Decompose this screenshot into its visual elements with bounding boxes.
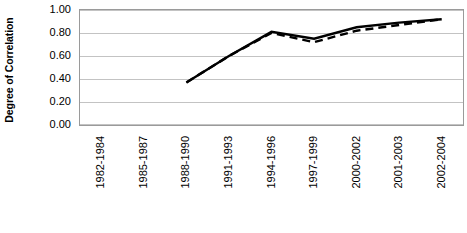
x-axis-tick-label: 2000-2002 <box>348 126 364 226</box>
y-axis-tick-label: 1.00 <box>50 4 71 15</box>
x-axis-tick-label-text: 1994-1996 <box>265 136 277 220</box>
x-axis-tick-label-text: 2000-2002 <box>350 136 362 220</box>
x-axis-tick-label: 1994-1996 <box>263 126 279 226</box>
x-axis-tick-label-text: 1997-1999 <box>307 136 319 220</box>
x-axis-tick-label: 2002-2004 <box>433 126 449 226</box>
x-axis-tick-label-text: 2002-2004 <box>435 136 447 220</box>
series-layer <box>80 10 463 125</box>
x-axis-tick-label-text: 1985-1987 <box>137 136 149 220</box>
series-line-solid-series <box>186 19 441 82</box>
y-axis-tick-label: 0.80 <box>50 27 71 38</box>
x-axis-tick-label-text: 1988-1990 <box>179 136 191 220</box>
x-axis-tick-label: 1985-1987 <box>135 126 151 226</box>
y-axis-tick-labels: 1.000.800.600.400.200.00 <box>20 0 75 133</box>
y-axis-title: Degree of Correlation <box>0 0 18 140</box>
x-axis-tick-label-text: 1991-1993 <box>222 136 234 220</box>
y-axis-tick-label: 0.60 <box>50 50 71 61</box>
series-line-dashed-series <box>186 19 441 82</box>
y-axis-title-label: Degree of Correlation <box>3 17 15 122</box>
x-axis-tick-label: 1982-1984 <box>92 126 108 226</box>
x-axis-tick-label: 2001-2003 <box>390 126 406 226</box>
y-axis-tick-label: 0.40 <box>50 73 71 84</box>
y-axis-tick-label: 0.00 <box>50 119 71 130</box>
x-axis-tick-label: 1997-1999 <box>305 126 321 226</box>
x-axis-tick-label: 1988-1990 <box>177 126 193 226</box>
x-axis-tick-label: 1991-1993 <box>220 126 236 226</box>
x-axis-tick-label-text: 1982-1984 <box>94 136 106 220</box>
x-axis-tick-labels: 1982-19841985-19871988-19901991-19931994… <box>79 126 462 233</box>
correlation-line-chart: Degree of Correlation 1.000.800.600.400.… <box>0 0 467 233</box>
y-axis-tick-label: 0.20 <box>50 96 71 107</box>
plot-area <box>79 9 464 126</box>
x-axis-tick-label-text: 2001-2003 <box>392 136 404 220</box>
